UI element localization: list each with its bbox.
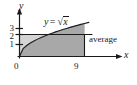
- equation-radicand: x: [63, 16, 69, 27]
- equation-equals: =: [49, 16, 57, 27]
- x-axis-label: x: [124, 50, 128, 60]
- x-tick-label-9: 9: [74, 62, 79, 71]
- average-line-annotation: average: [89, 35, 117, 44]
- radical-sign-icon: √x: [56, 16, 68, 27]
- y-axis-label: y: [19, 1, 23, 11]
- x-axis-arrow-icon: [116, 54, 123, 59]
- x-tick-label-0: 0: [14, 62, 19, 71]
- y-tick-label-1: 1: [4, 40, 14, 49]
- figure-container: y x 3 2 1 0 9 y=√x average: [0, 0, 137, 85]
- equation-lhs: y: [44, 16, 49, 27]
- curve-equation-label: y=√x: [44, 16, 69, 27]
